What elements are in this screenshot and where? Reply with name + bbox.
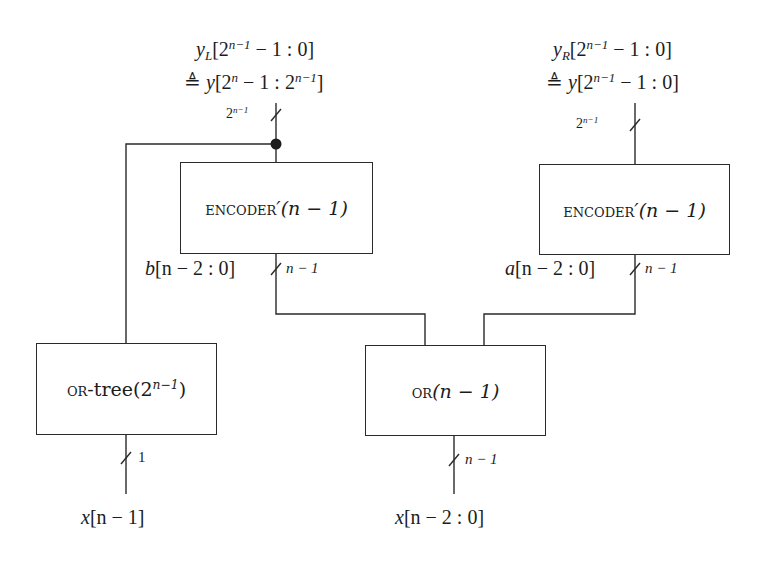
exponent: n−1 <box>594 70 616 85</box>
bus-width-b: n − 1 <box>286 260 319 277</box>
width-value: n − 1 <box>465 451 498 467</box>
defeq-symbol: ≜ <box>184 71 206 93</box>
subscript: R <box>562 48 570 63</box>
text: [2 <box>212 38 229 60</box>
block-encoder-right: encoder′(n − 1) <box>539 164 730 255</box>
signal-label-a: a[n − 2 : 0] <box>505 257 595 280</box>
block-exponent: n−1 <box>153 378 179 392</box>
text: [2 <box>577 71 594 93</box>
output-yr-line2: ≜ y[2n−1 − 1 : 0] <box>546 70 679 94</box>
text: − 1 : 2 <box>238 71 295 93</box>
var: x <box>81 506 90 528</box>
text: − 1 : 0] <box>615 71 679 93</box>
bus-width-or-tree-input: 1 <box>138 449 146 466</box>
range: [n − 2 : 0] <box>515 257 595 279</box>
var: b <box>145 257 155 279</box>
defeq-symbol: ≜ <box>546 71 568 93</box>
text: − 1 : 0] <box>608 38 672 60</box>
block-or-tree: or-tree(2n−1) <box>36 343 217 435</box>
bus-width-or-input: n − 1 <box>465 451 498 468</box>
base: 2 <box>576 116 583 131</box>
range: [n − 1] <box>90 506 145 528</box>
block-name: or <box>412 381 432 402</box>
block-encoder-left: encoder′(n − 1) <box>180 162 373 254</box>
block-encoder-right-label: encoder′(n − 1) <box>563 199 706 221</box>
text: − 1 : 0] <box>251 38 315 60</box>
var: x <box>395 506 404 528</box>
var: y <box>568 71 577 93</box>
bus-width-top-left: 2n−1 <box>226 106 248 122</box>
bus-width-a: n − 1 <box>645 260 678 277</box>
var: a <box>505 257 515 279</box>
block-args: ′(n − 1) <box>276 197 347 219</box>
block-encoder-left-label: encoder′(n − 1) <box>205 197 348 219</box>
block-args: (n − 1) <box>432 380 499 402</box>
width-value: n − 1 <box>645 260 678 276</box>
block-args: -tree(2 <box>87 378 152 400</box>
output-yl-line2: ≜ y[2n − 1 : 2n−1] <box>184 70 323 94</box>
width-value: 1 <box>138 449 146 465</box>
block-args: ′(n − 1) <box>634 199 705 221</box>
output-yl-line1: yL[2n−1 − 1 : 0] <box>196 38 314 61</box>
width-value: n − 1 <box>286 260 319 276</box>
range: [n − 2 : 0] <box>155 257 235 279</box>
text: [2 <box>570 38 587 60</box>
signal-label-x-rest: x[n − 2 : 0] <box>395 506 484 529</box>
base: 2 <box>226 106 233 121</box>
bus-width-top-right: 2n−1 <box>576 116 598 132</box>
var: y <box>196 38 205 60</box>
exponent: n−1 <box>233 105 248 115</box>
block-name: encoder <box>563 200 634 221</box>
block-or-tree-label: or-tree(2n−1) <box>67 378 186 400</box>
block-name: or <box>67 379 87 400</box>
exponent: n−1 <box>229 37 251 52</box>
signal-label-b: b[n − 2 : 0] <box>145 257 235 280</box>
exponent: n−1 <box>587 37 609 52</box>
block-name: encoder <box>205 198 276 219</box>
junction-dot <box>271 139 282 150</box>
output-yr-line1: yR[2n−1 − 1 : 0] <box>553 38 672 61</box>
text: [2 <box>215 71 232 93</box>
text: ] <box>317 71 324 93</box>
var: y <box>206 71 215 93</box>
var: y <box>553 38 562 60</box>
block-or: or(n − 1) <box>365 345 546 436</box>
block-or-label: or(n − 1) <box>412 380 500 402</box>
range: [n − 2 : 0] <box>404 506 484 528</box>
exponent: n−1 <box>583 115 598 125</box>
signal-label-x-msb: x[n − 1] <box>81 506 145 529</box>
block-close: ) <box>179 378 186 400</box>
exponent: n−1 <box>295 70 317 85</box>
